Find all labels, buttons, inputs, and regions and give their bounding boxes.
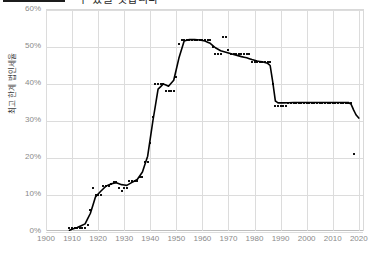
plot-area <box>46 9 364 231</box>
y-tick-label: 10% <box>1 189 41 198</box>
cropped-title-strip: 수 있을 것입니다 <box>0 0 382 7</box>
page-title: 수 있을 것입니다 <box>78 0 159 6</box>
logo-bar-icon <box>3 0 65 2</box>
trend-line <box>46 10 364 232</box>
chart-figure: 수 있을 것입니다 최고 한계 법인세율 0%10%20%30%40%50%60… <box>0 0 382 257</box>
y-tick-label: 40% <box>1 78 41 87</box>
y-tick-label: 50% <box>1 41 41 50</box>
x-tick-label: 2020 <box>339 234 379 243</box>
trend-path <box>69 40 358 231</box>
y-tick-label: 30% <box>1 115 41 124</box>
grid-line-y <box>46 232 363 233</box>
y-tick-label: 20% <box>1 152 41 161</box>
y-tick-label: 60% <box>1 4 41 13</box>
